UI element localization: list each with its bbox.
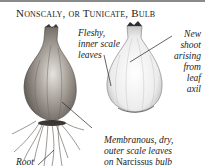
whole-bulb	[24, 24, 76, 126]
label-line: on Narcissus bulb	[104, 157, 173, 168]
label-text: on	[104, 157, 116, 167]
label-line: New	[170, 29, 201, 40]
label-line: from	[170, 62, 201, 73]
label-line: Fleshy,	[78, 28, 120, 39]
label-fleshy-inner-scale-leaves: Fleshy, inner scale leaves	[78, 28, 120, 61]
label-new-shoot: New shoot arising from leaf axil	[170, 29, 201, 95]
label-line: Membranous, dry,	[104, 135, 173, 146]
label-text: bulb	[153, 157, 172, 167]
leader-root	[38, 150, 54, 165]
label-line: axil	[170, 84, 201, 95]
label-line: leaf	[170, 73, 201, 84]
label-line: outer scale leaves	[104, 146, 173, 157]
label-root: Root	[16, 157, 34, 168]
label-line: shoot	[170, 40, 201, 51]
label-line: leaves	[78, 50, 120, 61]
leader-membranous	[62, 102, 92, 128]
genus-name: Narcissus	[116, 157, 153, 167]
label-line: arising	[170, 51, 201, 62]
label-line: inner scale	[78, 39, 120, 50]
label-membranous-outer-scale-leaves: Membranous, dry, outer scale leaves on N…	[104, 135, 173, 168]
